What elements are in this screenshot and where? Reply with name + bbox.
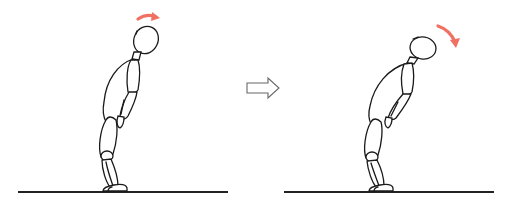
foot-left (103, 184, 127, 191)
upper-arm-left (127, 60, 140, 93)
hand-left (117, 116, 124, 128)
head-rotation-arrow-icon (138, 12, 160, 21)
hand-right (385, 117, 392, 128)
posture-diagram (0, 0, 516, 202)
shin-left (102, 159, 118, 187)
panel-1 (18, 12, 228, 192)
transition-arrow-icon (247, 78, 279, 98)
foot-right (369, 184, 393, 191)
head-tilt-arrow-icon (438, 26, 460, 48)
shin-right (367, 160, 384, 187)
panel-2 (284, 26, 494, 192)
upper-arm-right (402, 63, 414, 95)
diagram-canvas (0, 0, 516, 202)
